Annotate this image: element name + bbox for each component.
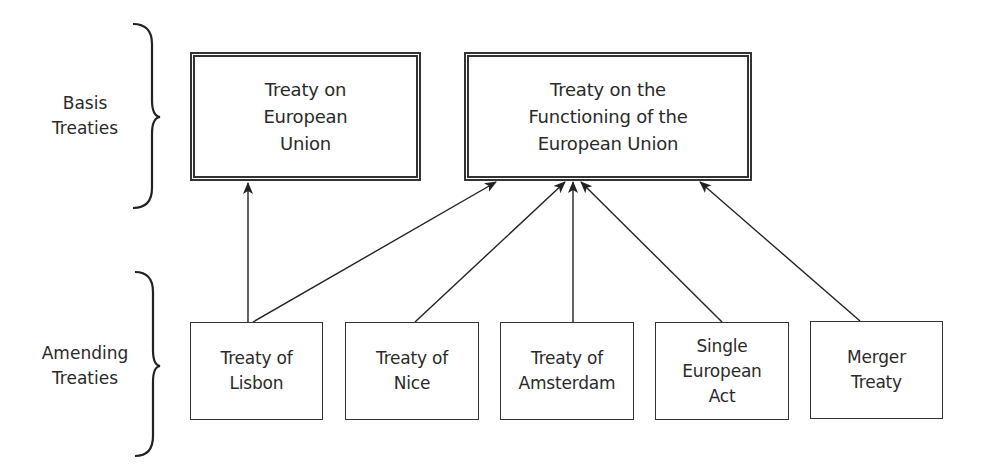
edge-merger-tfeu <box>700 182 860 321</box>
eu-treaties-diagram: Basis Treaties Amending Treaties Treaty … <box>0 0 993 470</box>
treaty-of-nice-node: Treaty of Nice <box>345 322 479 420</box>
tfeu-node: Treaty on the Functioning of the Europea… <box>464 52 752 181</box>
node-label: Treaty on the Functioning of the Europea… <box>528 76 687 157</box>
merger-treaty-node: Merger Treaty <box>810 321 943 419</box>
basis-treaties-label: Basis Treaties <box>30 91 140 141</box>
edge-lisbon-tfeu <box>253 182 496 322</box>
node-label: Single European Act <box>682 334 761 409</box>
treaty-of-amsterdam-node: Treaty of Amsterdam <box>500 322 634 420</box>
edge-nice-tfeu <box>415 182 565 322</box>
node-label: Treaty of Lisbon <box>220 346 292 396</box>
single-european-act-node: Single European Act <box>655 322 789 420</box>
node-label: Merger Treaty <box>847 345 906 395</box>
treaty-on-european-union-node: Treaty on European Union <box>190 52 421 181</box>
node-label: Treaty of Amsterdam <box>519 346 616 396</box>
amending-treaties-label: Amending Treaties <box>25 341 145 391</box>
node-label: Treaty on European Union <box>263 76 347 157</box>
edge-sea-tfeu <box>581 182 722 322</box>
node-label: Treaty of Nice <box>376 346 448 396</box>
treaty-of-lisbon-node: Treaty of Lisbon <box>190 322 323 420</box>
